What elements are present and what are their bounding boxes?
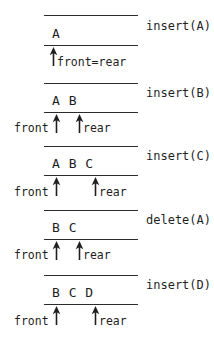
front-pointer-label: front [14, 316, 49, 328]
front-pointer-arrow-icon [51, 177, 62, 196]
operation-label: insert(D) [146, 279, 211, 291]
queue-cells: B C [52, 221, 77, 234]
queue-bottom-rule [44, 112, 138, 113]
queue-bottom-rule [44, 239, 138, 240]
operation-label: insert(C) [146, 150, 211, 162]
rear-pointer-label: rear [83, 250, 111, 262]
queue-cells: B C D [52, 286, 94, 299]
rear-pointer-label: rear [99, 316, 127, 328]
queue-cells: A B [52, 94, 77, 107]
front-pointer-arrow-icon [51, 306, 62, 325]
front-rear-pointer-label: front=rear [57, 57, 126, 69]
queue-top-rule [44, 275, 138, 276]
queue-bottom-rule [44, 304, 138, 305]
queue-cells: A [52, 27, 60, 40]
queue-bottom-rule [44, 175, 138, 176]
front-pointer-label: front [14, 187, 49, 199]
front-pointer-arrow-icon [51, 114, 62, 133]
front-pointer-arrow-icon [51, 241, 62, 260]
queue-operations-diagram: A insert(A) front=rear A B insert(B) fro… [0, 0, 214, 357]
queue-cells: A B C [52, 157, 94, 170]
front-pointer-label: front [14, 123, 49, 135]
queue-top-rule [44, 210, 138, 211]
queue-top-rule [44, 15, 138, 16]
rear-pointer-label: rear [83, 123, 111, 135]
rear-pointer-label: rear [99, 187, 127, 199]
queue-top-rule [44, 146, 138, 147]
queue-bottom-rule [44, 45, 138, 46]
front-pointer-label: front [14, 250, 49, 262]
operation-label: insert(A) [146, 20, 211, 32]
operation-label: delete(A) [146, 214, 211, 226]
queue-top-rule [44, 83, 138, 84]
operation-label: insert(B) [146, 87, 211, 99]
